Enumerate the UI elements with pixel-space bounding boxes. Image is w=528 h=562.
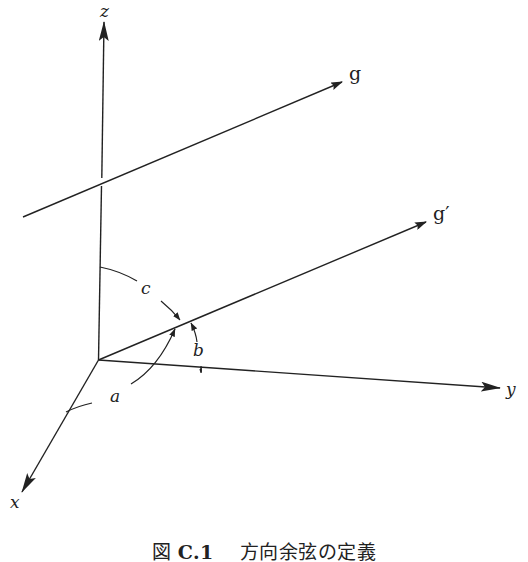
line-g: g <box>23 62 361 217</box>
caption-prefix: 図 <box>152 541 172 562</box>
y-axis: y <box>99 360 517 399</box>
angle-b-marker: b <box>191 323 204 373</box>
line-g-prime: g′ <box>99 202 450 360</box>
caption-number: C.1 <box>178 541 214 562</box>
x-axis: x <box>10 360 99 512</box>
direction-cosine-diagram: z y x g g′ c b a <box>0 0 528 562</box>
angle-a-marker: a <box>66 329 175 412</box>
angle-c-label: c <box>141 278 151 298</box>
caption-title: 方向余弦の定義 <box>240 541 377 562</box>
line-g-label: g <box>349 62 361 84</box>
line-g-prime-label: g′ <box>433 202 449 224</box>
z-axis-label: z <box>99 1 110 21</box>
x-axis-label: x <box>10 492 20 512</box>
y-axis-label: y <box>505 379 516 399</box>
angle-c-marker: c <box>100 267 180 320</box>
angle-b-label: b <box>193 340 204 360</box>
angle-a-label: a <box>110 386 120 406</box>
figure-caption: 図 C.1 方向余弦の定義 <box>0 537 528 562</box>
